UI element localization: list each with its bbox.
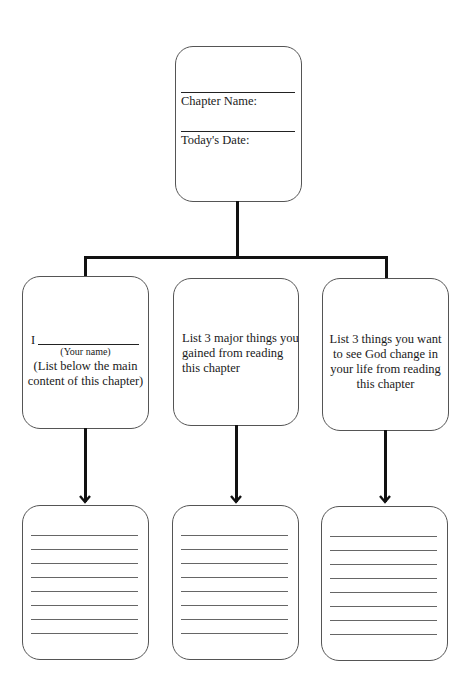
major-things-instruction-1: List 3 major things you <box>182 331 299 346</box>
connector-vertical-top <box>236 201 239 258</box>
god-change-box: List 3 things you want to see God change… <box>322 278 449 431</box>
god-change-instruction-4: this chapter <box>323 377 448 392</box>
writing-line[interactable] <box>330 620 437 621</box>
writing-line[interactable] <box>181 563 288 564</box>
chapter-name-line[interactable] <box>181 92 295 93</box>
arrow-middle-shaft <box>235 425 238 502</box>
todays-date-line[interactable] <box>181 131 295 132</box>
writing-line[interactable] <box>31 591 138 592</box>
writing-line[interactable] <box>31 535 138 536</box>
writing-line[interactable] <box>330 606 437 607</box>
major-things-box: List 3 major things you gained from read… <box>173 278 299 426</box>
arrow-down-icon <box>379 495 391 504</box>
arrow-right-shaft <box>384 430 387 502</box>
writing-line[interactable] <box>181 591 288 592</box>
arrow-down-icon <box>230 495 242 504</box>
writing-box-god-change[interactable] <box>321 506 448 661</box>
writing-line[interactable] <box>330 564 437 565</box>
main-content-box: I (Your name) (List below the main conte… <box>22 276 149 429</box>
god-change-instruction-1: List 3 things you want <box>323 332 448 347</box>
writing-line[interactable] <box>31 633 138 634</box>
writing-box-main-content[interactable] <box>22 505 149 660</box>
main-content-instruction-1: (List below the main <box>23 359 148 374</box>
writing-line[interactable] <box>330 550 437 551</box>
writing-line[interactable] <box>181 605 288 606</box>
writing-box-major-things[interactable] <box>172 505 299 660</box>
writing-line[interactable] <box>31 577 138 578</box>
writing-line[interactable] <box>330 536 437 537</box>
your-name-caption: (Your name) <box>23 346 148 358</box>
writing-line[interactable] <box>31 605 138 606</box>
writing-line[interactable] <box>181 535 288 536</box>
writing-line[interactable] <box>330 634 437 635</box>
god-change-instruction-2: to see God change in <box>323 347 448 362</box>
your-name-line[interactable] <box>38 344 139 345</box>
writing-line[interactable] <box>181 549 288 550</box>
major-things-instruction-2: gained from reading <box>182 346 283 361</box>
writing-line[interactable] <box>31 549 138 550</box>
god-change-instruction-3: your life from reading <box>323 362 448 377</box>
arrow-down-icon <box>79 495 91 504</box>
main-content-instruction-2: content of this chapter) <box>23 374 148 389</box>
arrow-left-shaft <box>84 428 87 502</box>
todays-date-label: Today's Date: <box>181 133 249 148</box>
writing-line[interactable] <box>31 619 138 620</box>
chapter-name-label: Chapter Name: <box>181 94 257 109</box>
writing-line[interactable] <box>330 592 437 593</box>
connector-right-drop <box>385 256 388 279</box>
writing-line[interactable] <box>31 563 138 564</box>
writing-line[interactable] <box>330 578 437 579</box>
connector-left-drop <box>84 256 87 277</box>
writing-line[interactable] <box>181 577 288 578</box>
connector-horizontal <box>84 256 388 259</box>
writing-line[interactable] <box>181 633 288 634</box>
chapter-info-box: Chapter Name: Today's Date: <box>175 46 302 202</box>
major-things-instruction-3: this chapter <box>182 361 240 376</box>
writing-line[interactable] <box>181 619 288 620</box>
